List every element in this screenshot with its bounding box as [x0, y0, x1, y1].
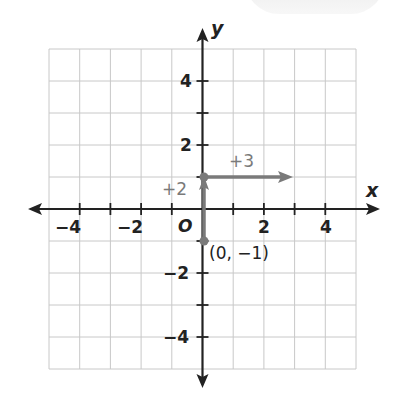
y-tick-label-neg4: −4: [163, 329, 189, 346]
y-tick-label-neg2: −2: [163, 265, 189, 282]
run-label: +3: [229, 153, 254, 170]
point-label: (0, −1): [209, 245, 269, 262]
y-tick-label-4: 4: [180, 73, 192, 90]
x-tick-label-neg4: −4: [55, 219, 81, 236]
y-tick-label-2: 2: [180, 137, 192, 154]
point-end: [200, 173, 209, 182]
point-start: [200, 237, 209, 246]
origin-label: O: [178, 218, 192, 235]
x-axis-label: x: [366, 181, 378, 200]
rise-label: +2: [162, 181, 187, 198]
x-tick-label-4: 4: [320, 219, 332, 236]
coordinate-plane: [0, 0, 402, 405]
x-tick-label-2: 2: [258, 219, 270, 236]
y-axis-label: y: [211, 19, 223, 38]
x-tick-label-neg2: −2: [117, 219, 143, 236]
